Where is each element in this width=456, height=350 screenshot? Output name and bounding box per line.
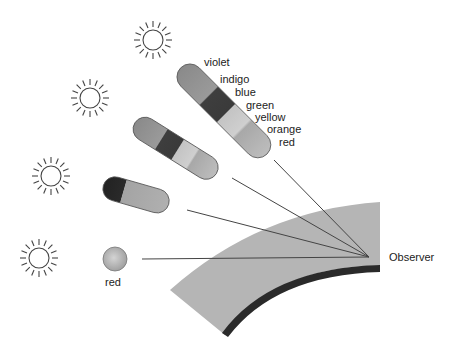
rainbow-diagram: violet indigo blue green yellow orange r… [0, 0, 456, 350]
sun-icon [32, 157, 70, 195]
earth-surface [170, 202, 380, 337]
label-indigo: indigo [220, 73, 249, 85]
drop-single-red [103, 247, 127, 271]
label-violet: violet [204, 56, 230, 68]
label-red: red [279, 136, 295, 148]
sun-icon [20, 239, 58, 277]
label-observer: Observer [389, 251, 435, 263]
drop-band-2 [129, 113, 223, 184]
drop-band-3 [100, 174, 172, 216]
sun-icon [71, 79, 109, 117]
label-green: green [246, 99, 274, 111]
label-orange: orange [267, 123, 301, 135]
label-single-red: red [105, 276, 121, 288]
sun-icon [134, 21, 172, 59]
label-blue: blue [235, 86, 256, 98]
label-yellow: yellow [255, 111, 286, 123]
